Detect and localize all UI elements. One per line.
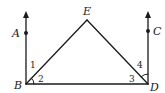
angle-label-4: 4 — [137, 60, 143, 70]
label-d: D — [149, 81, 159, 93]
label-a: A — [11, 27, 20, 40]
angle-label-2: 2 — [38, 74, 44, 84]
angle-arc-4 — [141, 74, 148, 77]
point-c-dot — [146, 29, 150, 33]
segment-be — [26, 20, 87, 84]
label-b: B — [13, 79, 22, 92]
angle-label-1: 1 — [30, 60, 36, 70]
point-a-dot — [24, 31, 28, 35]
arrowhead-up-icon — [23, 11, 29, 18]
segment-ed — [87, 20, 148, 84]
angle-arc-2 — [32, 78, 35, 84]
arrowhead-up-icon — [145, 11, 151, 18]
angle-label-3: 3 — [129, 74, 135, 84]
label-c: C — [153, 25, 162, 38]
geometry-diagram: A B C D E 1 2 3 4 — [0, 0, 165, 93]
label-e: E — [82, 5, 91, 18]
